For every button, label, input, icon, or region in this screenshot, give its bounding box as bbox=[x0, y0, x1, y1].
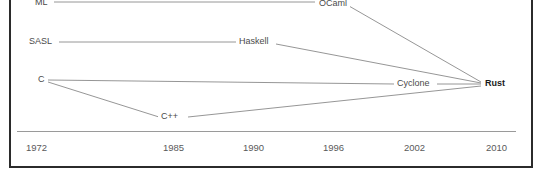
node-label-cpp: C++ bbox=[158, 111, 181, 122]
edge-cpp-rust bbox=[188, 86, 481, 117]
node-label-ml: ML bbox=[32, 0, 51, 8]
edge-haskell-rust bbox=[276, 44, 481, 83]
tick-label-2002: 2002 bbox=[404, 142, 425, 154]
node-label-cyclone: Cyclone bbox=[394, 78, 433, 89]
edge-c-cpp bbox=[48, 82, 159, 117]
node-label-c: C bbox=[35, 74, 48, 85]
tick-label-1972: 1972 bbox=[26, 142, 47, 154]
tick-label-2010: 2010 bbox=[486, 142, 507, 154]
tick-label-1996: 1996 bbox=[323, 142, 344, 154]
node-label-ocaml: OCaml bbox=[316, 0, 350, 9]
node-label-rust: Rust bbox=[482, 78, 508, 89]
edge-c-cyclone bbox=[48, 80, 394, 84]
node-label-sasl: SASL bbox=[26, 36, 55, 47]
tick-label-1990: 1990 bbox=[243, 142, 264, 154]
node-label-haskell: Haskell bbox=[236, 36, 272, 47]
tick-label-1985: 1985 bbox=[163, 142, 184, 154]
language-genealogy-figure: ML OCaml SASL Haskell C Cyclone Rust C++… bbox=[0, 0, 544, 175]
influence-edges bbox=[0, 0, 544, 175]
axis-baseline bbox=[17, 131, 516, 132]
plot-area: ML OCaml SASL Haskell C Cyclone Rust C++… bbox=[0, 0, 544, 175]
